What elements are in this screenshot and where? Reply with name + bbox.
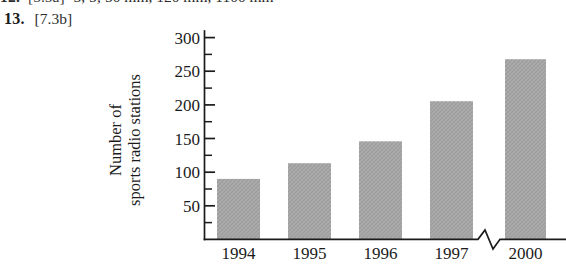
y-axis-title: Number of sports radio stations: [106, 74, 144, 206]
y-axis-title-line-1: Number of: [106, 104, 125, 176]
ytick-label-150: 150: [175, 130, 201, 149]
ytick-label-100: 100: [175, 163, 201, 182]
xtick-label-1994: 1994: [222, 244, 257, 263]
bar-chart: 50 100 150 200 250 300 1994 1995 1996 19…: [0, 0, 566, 274]
y-axis-title-line-2: sports radio stations: [125, 74, 144, 206]
xtick-label-1996: 1996: [364, 244, 398, 263]
bar-1995: [288, 163, 331, 239]
bar-2000: [505, 59, 546, 239]
bars-group: [217, 59, 546, 239]
ytick-label-300: 300: [175, 29, 201, 48]
xtick-label-1997: 1997: [435, 244, 470, 263]
bar-1996: [359, 141, 402, 239]
xtick-label-2000: 2000: [509, 244, 543, 263]
xtick-label-1995: 1995: [293, 244, 327, 263]
bar-1997: [430, 101, 473, 239]
y-axis-tick-labels: 50 100 150 200 250 300: [175, 29, 201, 216]
ytick-label-200: 200: [175, 96, 201, 115]
ytick-label-250: 250: [175, 62, 201, 81]
ytick-label-50: 50: [183, 197, 200, 216]
chart-svg: 50 100 150 200 250 300 1994 1995 1996 19…: [0, 0, 566, 274]
bar-1994: [217, 179, 260, 239]
